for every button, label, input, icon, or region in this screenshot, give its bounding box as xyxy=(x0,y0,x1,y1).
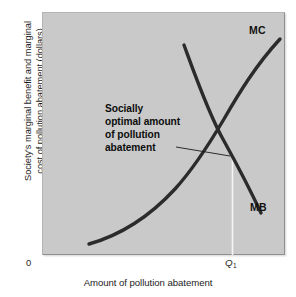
mb-curve xyxy=(184,45,261,213)
y-axis-label-line1: Society's marginal benefit and marginal xyxy=(22,21,34,181)
socially-optimal-annotation: Socially optimal amount of pollution aba… xyxy=(105,102,180,154)
annotation-line-2: optimal amount xyxy=(105,115,180,128)
x-axis-tick-q1-subscript: 1 xyxy=(233,262,237,269)
annotation-line-1: Socially xyxy=(105,102,180,115)
annotation-line-4: abatement xyxy=(105,141,180,154)
annotation-line-3: of pollution xyxy=(105,128,180,141)
x-axis-tick-q1: Q1 xyxy=(225,257,236,268)
x-axis-tick-q1-letter: Q xyxy=(225,257,233,268)
pollution-abatement-chart: Society's marginal benefit and marginal … xyxy=(0,0,296,297)
mc-curve-label: MC xyxy=(249,24,266,36)
mb-curve-label: MB xyxy=(250,201,267,213)
x-axis-label: Amount of pollution abatement xyxy=(0,277,296,288)
x-axis-tick-zero: 0 xyxy=(26,257,31,268)
